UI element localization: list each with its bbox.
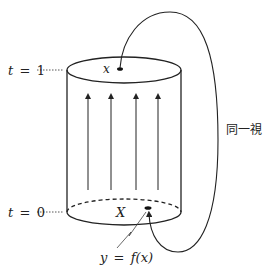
top-point-label: x [103, 62, 110, 76]
t-top-label: t = 1 [8, 63, 45, 78]
mapping-cylinder-diagram: t = 1 t = 0 x X 同一視 y = f(x) [0, 0, 268, 277]
identification-curve [120, 12, 218, 252]
base-point-dot [145, 206, 152, 210]
top-ellipse [67, 57, 181, 83]
base-space-label: X [115, 205, 126, 220]
t-bottom-label: t = 0 [8, 205, 45, 220]
map-label: y = f(x) [99, 250, 153, 265]
flow-arrows [88, 96, 158, 190]
identification-label: 同一視 [226, 122, 262, 137]
